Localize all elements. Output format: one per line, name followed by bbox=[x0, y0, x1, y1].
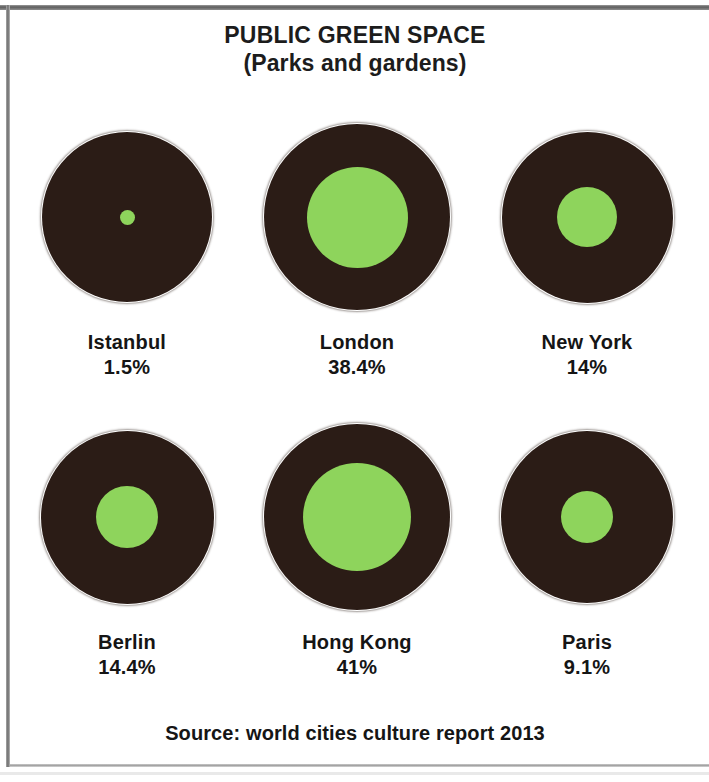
city-name-london: London bbox=[320, 330, 395, 355]
outer-disc-hong-kong bbox=[264, 424, 450, 610]
city-grid: Istanbul 1.5% London 38.4% New Y bbox=[12, 112, 702, 712]
city-cell-istanbul: Istanbul 1.5% bbox=[12, 112, 242, 412]
city-cell-hong-kong: Hong Kong 41% bbox=[242, 412, 472, 712]
disc-wrap-london bbox=[264, 112, 450, 322]
city-row-2: Berlin 14.4% Hong Kong 41% Paris bbox=[12, 412, 702, 712]
city-row-1: Istanbul 1.5% London 38.4% New Y bbox=[12, 112, 702, 412]
city-value-berlin: 14.4% bbox=[98, 655, 156, 680]
disc-wrap-istanbul bbox=[42, 112, 212, 322]
chart-title-block: PUBLIC GREEN SPACE (Parks and gardens) bbox=[10, 22, 700, 77]
green-disc-istanbul bbox=[120, 210, 135, 225]
city-name-hong-kong: Hong Kong bbox=[302, 630, 412, 655]
city-cell-new-york: New York 14% bbox=[472, 112, 702, 412]
city-cell-berlin: Berlin 14.4% bbox=[12, 412, 242, 712]
city-cell-paris: Paris 9.1% bbox=[472, 412, 702, 712]
outer-disc-paris bbox=[501, 431, 673, 603]
city-value-london: 38.4% bbox=[328, 355, 386, 380]
disc-wrap-berlin bbox=[41, 412, 214, 622]
outer-disc-berlin bbox=[41, 431, 214, 604]
green-disc-paris bbox=[561, 491, 613, 543]
source-caption: Source: world cities culture report 2013 bbox=[10, 722, 700, 745]
chart-subtitle: (Parks and gardens) bbox=[10, 49, 700, 77]
disc-wrap-hong-kong bbox=[264, 412, 450, 622]
city-name-paris: Paris bbox=[562, 630, 612, 655]
page-border-bottom bbox=[10, 764, 709, 767]
green-disc-hong-kong bbox=[303, 463, 411, 571]
city-value-hong-kong: 41% bbox=[337, 655, 378, 680]
outer-disc-new-york bbox=[502, 132, 673, 303]
city-name-berlin: Berlin bbox=[98, 630, 156, 655]
city-name-new-york: New York bbox=[542, 330, 633, 355]
outer-disc-london bbox=[264, 124, 450, 310]
page-border-top bbox=[0, 5, 709, 10]
outer-disc-istanbul bbox=[42, 132, 212, 302]
infographic-root: PUBLIC GREEN SPACE (Parks and gardens) I… bbox=[0, 0, 709, 782]
green-disc-london bbox=[307, 167, 408, 268]
city-value-paris: 9.1% bbox=[564, 655, 610, 680]
city-name-istanbul: Istanbul bbox=[88, 330, 166, 355]
city-cell-london: London 38.4% bbox=[242, 112, 472, 412]
green-disc-new-york bbox=[557, 187, 617, 247]
chart-title: PUBLIC GREEN SPACE bbox=[10, 22, 700, 49]
green-disc-berlin bbox=[96, 486, 158, 548]
city-value-istanbul: 1.5% bbox=[104, 355, 150, 380]
disc-wrap-paris bbox=[501, 412, 673, 622]
page-border-bottom-shadow bbox=[0, 772, 709, 775]
city-value-new-york: 14% bbox=[567, 355, 608, 380]
page-border-left bbox=[6, 5, 10, 767]
disc-wrap-new-york bbox=[502, 112, 673, 322]
